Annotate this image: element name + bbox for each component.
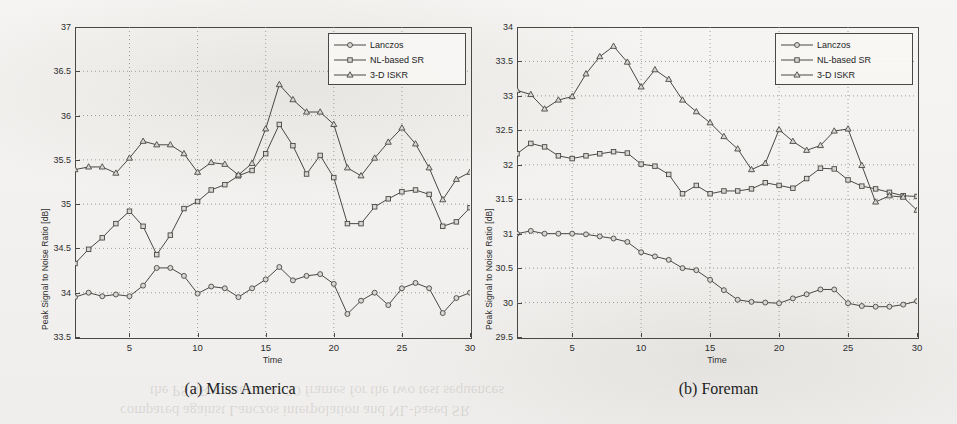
legend-label: NL-based SR [817, 55, 871, 65]
y-tick-label: 34.5 [33, 243, 71, 253]
y-tick-mark [75, 248, 80, 249]
legend-marker-triangle-icon [333, 68, 367, 82]
x-tick-mark [641, 333, 642, 337]
panel-foreman: Peak Signal to Noise Ratio [dB] 29.53030… [480, 0, 957, 424]
legend-item-nl-based-sr[interactable]: NL-based SR [780, 52, 908, 67]
series-nl-based-sr [517, 141, 917, 199]
x-tick-mark [917, 333, 918, 337]
legend-label: Lanczos [817, 40, 851, 50]
x-tick-label: 5 [570, 342, 575, 353]
legend-marker-square-icon [780, 53, 814, 67]
x-tick-label: 30 [465, 342, 476, 353]
legend-label: NL-based SR [370, 55, 424, 65]
y-tick-mark [517, 61, 522, 62]
legend-item-3-d-iskr[interactable]: 3-D ISKR [333, 67, 461, 82]
legend-b: LanczosNL-based SR3-D ISKR [775, 33, 913, 85]
series-line [517, 231, 917, 307]
legend-label: Lanczos [370, 40, 404, 50]
x-tick-mark [129, 333, 130, 337]
y-tick-label: 30 [475, 298, 513, 308]
legend-a: LanczosNL-based SR3-D ISKR [328, 33, 466, 85]
y-tick-mark [75, 116, 80, 117]
y-tick-label: 34 [475, 22, 513, 32]
y-tick-label: 29.5 [475, 332, 513, 342]
x-tick-mark [402, 333, 403, 337]
y-tick-mark [517, 234, 522, 235]
x-tick-label: 20 [774, 342, 785, 353]
y-tick-mark [517, 165, 522, 166]
y-tick-label: 30.5 [475, 263, 513, 273]
x-tick-label: 5 [127, 342, 132, 353]
x-tick-mark [198, 333, 199, 337]
series-lanczos [517, 228, 917, 309]
y-tick-label: 32.5 [475, 125, 513, 135]
x-axis-title-a: Time [75, 355, 470, 365]
series-lanczos [75, 265, 470, 317]
y-tick-label: 31.5 [475, 194, 513, 204]
x-tick-mark [470, 333, 471, 337]
legend-marker-circle-icon [780, 38, 814, 52]
y-tick-mark [75, 204, 80, 205]
y-tick-mark [75, 27, 80, 28]
figure-canvas: the PSNR values over 30 frames for the t… [0, 0, 957, 424]
legend-label: 3-D ISKR [370, 70, 408, 80]
y-tick-label: 33.5 [33, 332, 71, 342]
y-tick-mark [75, 337, 80, 338]
y-tick-mark [517, 199, 522, 200]
caption-a: (a) Miss America [0, 380, 480, 398]
y-tick-label: 37 [33, 22, 71, 32]
y-tick-mark [517, 268, 522, 269]
y-tick-label: 32 [475, 160, 513, 170]
x-tick-mark [848, 333, 849, 337]
x-tick-label: 30 [912, 342, 923, 353]
series-line [75, 124, 470, 263]
y-tick-mark [75, 293, 80, 294]
x-tick-label: 25 [843, 342, 854, 353]
x-tick-label: 10 [636, 342, 647, 353]
y-tick-mark [517, 130, 522, 131]
y-tick-label: 36.5 [33, 66, 71, 76]
y-tick-mark [75, 71, 80, 72]
x-tick-label: 10 [192, 342, 203, 353]
x-tick-mark [572, 333, 573, 337]
panel-miss-america: Peak Signal to Noise Ratio [dB] 33.53434… [0, 0, 480, 424]
legend-label: 3-D ISKR [817, 70, 855, 80]
legend-marker-triangle-icon [780, 68, 814, 82]
y-tick-mark [517, 337, 522, 338]
y-tick-mark [75, 160, 80, 161]
legend-item-lanczos[interactable]: Lanczos [780, 37, 908, 52]
x-tick-mark [710, 333, 711, 337]
y-axis-title-a: Peak Signal to Noise Ratio [dB] [40, 208, 50, 330]
series-line [75, 85, 470, 200]
caption-b: (b) Foreman [480, 380, 957, 398]
y-tick-label: 33.5 [475, 56, 513, 66]
y-tick-label: 31 [475, 229, 513, 239]
x-tick-mark [266, 333, 267, 337]
legend-item-nl-based-sr[interactable]: NL-based SR [333, 52, 461, 67]
y-tick-label: 34 [33, 288, 71, 298]
x-tick-label: 15 [260, 342, 271, 353]
y-tick-mark [517, 303, 522, 304]
y-tick-mark [517, 27, 522, 28]
y-tick-label: 36 [33, 111, 71, 121]
series-line [75, 267, 470, 314]
x-tick-mark [779, 333, 780, 337]
x-tick-mark [334, 333, 335, 337]
series-nl-based-sr [75, 122, 470, 266]
y-tick-mark [517, 96, 522, 97]
x-axis-title-b: Time [517, 355, 917, 365]
x-tick-label: 25 [397, 342, 408, 353]
y-tick-label: 35.5 [33, 155, 71, 165]
legend-item-3-d-iskr[interactable]: 3-D ISKR [780, 67, 908, 82]
legend-marker-circle-icon [333, 38, 367, 52]
y-tick-label: 33 [475, 91, 513, 101]
y-tick-label: 35 [33, 199, 71, 209]
legend-item-lanczos[interactable]: Lanczos [333, 37, 461, 52]
legend-marker-square-icon [333, 53, 367, 67]
x-tick-label: 15 [705, 342, 716, 353]
series-3-d-iskr [75, 81, 470, 201]
x-tick-label: 20 [328, 342, 339, 353]
